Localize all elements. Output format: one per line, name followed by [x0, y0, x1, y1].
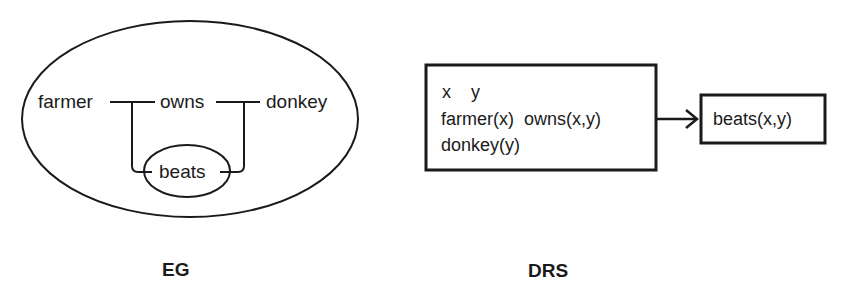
eg-node-farmer: farmer — [38, 91, 94, 112]
eg-node-donkey: donkey — [266, 91, 328, 112]
diagram-svg: farmer owns donkey beats EG x y farmer(x… — [0, 0, 845, 299]
diagram-canvas: farmer owns donkey beats EG x y farmer(x… — [0, 0, 845, 299]
eg-node-owns: owns — [160, 91, 204, 112]
drs-condition-beats: beats(x,y) — [713, 109, 792, 129]
drs-condition-donkey: donkey(y) — [441, 135, 520, 155]
eg-node-beats: beats — [159, 161, 205, 182]
implication-arrow-icon — [657, 110, 697, 128]
drs-structure: x y farmer(x) owns(x,y) donkey(y) beats(… — [426, 65, 825, 170]
drs-referents: x y — [442, 82, 480, 102]
eg-outer-ellipse — [22, 21, 358, 217]
drs-condition-farmer-owns: farmer(x) owns(x,y) — [441, 109, 601, 129]
drs-caption: DRS — [528, 260, 568, 281]
eg-graph: farmer owns donkey beats — [22, 21, 358, 217]
eg-caption: EG — [162, 259, 189, 280]
